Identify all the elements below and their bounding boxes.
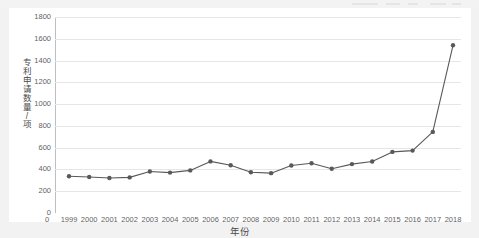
x-tick-label: 2014 — [364, 216, 381, 224]
x-tick-label: 2003 — [141, 216, 158, 224]
series-marker — [309, 161, 313, 165]
series-marker — [228, 163, 232, 167]
x-tick-label: 2012 — [323, 216, 340, 224]
series-marker — [188, 168, 192, 172]
series-marker — [87, 175, 91, 179]
series-marker — [127, 175, 131, 179]
y-tick-label: 400 — [38, 166, 51, 174]
series-marker — [148, 169, 152, 173]
series-marker — [107, 176, 111, 180]
line-series — [55, 17, 461, 213]
x-tick-label: 2013 — [344, 216, 361, 224]
x-tick-label: 2006 — [202, 216, 219, 224]
series-marker — [390, 150, 394, 154]
x-tick-label: 2017 — [424, 216, 441, 224]
series-marker — [370, 159, 374, 163]
series-marker — [249, 170, 253, 174]
chart-screenshot: 专利申请数量/项 0200400600800100012001400160018… — [0, 0, 479, 238]
x-tick-label: 2015 — [384, 216, 401, 224]
series-marker — [67, 174, 71, 178]
x-tick-label: 2000 — [81, 216, 98, 224]
series-marker — [269, 171, 273, 175]
y-tick-label: 1800 — [34, 13, 51, 21]
x-tick-label: 2005 — [182, 216, 199, 224]
y-tick-label: 1600 — [34, 35, 51, 43]
x-tick-label: 2004 — [162, 216, 179, 224]
x-tick-label: 2009 — [263, 216, 280, 224]
series-marker — [208, 159, 212, 163]
x-tick-label: 2001 — [101, 216, 118, 224]
x-tick-label-origin: 0 — [45, 216, 49, 224]
series-marker — [330, 166, 334, 170]
series-marker — [451, 43, 455, 47]
y-tick-label: 1000 — [34, 100, 51, 108]
x-tick-label: 2016 — [404, 216, 421, 224]
y-tick-label: 1200 — [34, 79, 51, 87]
series-line — [69, 45, 453, 178]
series-marker — [431, 130, 435, 134]
x-tick-label: 2010 — [283, 216, 300, 224]
y-tick-label: 200 — [38, 187, 51, 195]
series-marker — [350, 162, 354, 166]
y-axis-title: 专利申请数量/项 — [21, 58, 33, 129]
series-marker — [410, 148, 414, 152]
series-marker — [289, 163, 293, 167]
series-markers — [67, 43, 455, 180]
chart-card: 专利申请数量/项 0200400600800100012001400160018… — [9, 8, 471, 222]
x-tick-label: 1999 — [61, 216, 78, 224]
x-tick-label: 2011 — [303, 216, 319, 224]
y-tick-label: 800 — [38, 122, 51, 130]
series-marker — [168, 170, 172, 174]
y-tick-label: 600 — [38, 144, 51, 152]
plot-area: 020040060080010001200140016001800 019992… — [55, 17, 461, 213]
x-tick-label: 2008 — [243, 216, 260, 224]
x-tick-label: 2007 — [222, 216, 239, 224]
x-axis-title: 年份 — [9, 224, 471, 238]
y-tick-label: 1400 — [34, 57, 51, 65]
x-tick-label: 2018 — [445, 216, 462, 224]
x-tick-label: 2002 — [121, 216, 138, 224]
y-axis-title-char: 项 — [21, 120, 33, 129]
